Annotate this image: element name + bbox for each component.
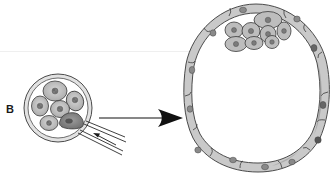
illustration	[0, 0, 333, 177]
figure: B	[0, 0, 333, 177]
cleavage-embryo	[24, 74, 92, 142]
blastocyst	[184, 4, 330, 172]
right-arrow-icon	[99, 109, 183, 127]
suction-arrow-icon	[93, 133, 116, 145]
